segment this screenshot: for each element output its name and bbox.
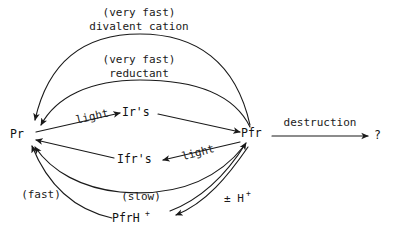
- node-pfr: Pfr: [241, 126, 262, 140]
- label-light-top: light: [75, 107, 110, 127]
- node-ifrs: Ifr's: [117, 152, 152, 166]
- edge-ifrs-to-pr: [36, 140, 114, 158]
- node-pfrh: PfrH: [112, 211, 140, 225]
- label-divalent-line2: divalent cation: [89, 20, 188, 33]
- label-proton: ± H: [224, 192, 244, 205]
- label-reductant-line1: (very fast): [103, 53, 176, 66]
- label-light-bottom: light: [180, 142, 215, 163]
- label-slow: (slow): [121, 190, 161, 203]
- phytochrome-diagram: Pr Pfr Ir's Ifr's PfrH + ? (very fast) d…: [0, 0, 405, 244]
- diagram-canvas: Pr Pfr Ir's Ifr's PfrH + ? (very fast) d…: [0, 0, 405, 244]
- edge-pfr-to-pr-reductant: [41, 80, 250, 127]
- node-unknown: ?: [374, 128, 381, 142]
- edge-pfrh-to-pr-fast: [32, 146, 112, 218]
- edge-irs-to-pfr: [158, 114, 240, 132]
- label-proton-superscript: +: [246, 189, 251, 198]
- label-divalent-line1: (very fast): [103, 6, 176, 19]
- label-reductant-line2: reductant: [109, 67, 169, 80]
- label-fast: (fast): [21, 188, 61, 201]
- node-pr: Pr: [10, 127, 24, 141]
- label-destruction: destruction: [284, 116, 357, 129]
- node-irs: Ir's: [122, 105, 150, 119]
- node-pfrh-superscript: +: [145, 209, 150, 218]
